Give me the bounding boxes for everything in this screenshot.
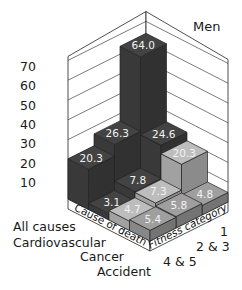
cause-label-cancer: Cancer: [80, 251, 124, 264]
cause-label-accident: Accident: [97, 266, 151, 279]
z-tick-20: 20: [6, 158, 36, 171]
z-tick-60: 60: [6, 80, 36, 93]
value-label: 20.3: [173, 147, 196, 159]
z-tick-10: 10: [6, 177, 36, 190]
fitness-label-2-3: 2 & 3: [196, 241, 230, 254]
fitness-label-1: 1: [220, 226, 228, 239]
value-label: 5.8: [170, 199, 187, 211]
value-label: 64.0: [132, 39, 155, 51]
value-label: 4.7: [124, 203, 141, 215]
z-tick-30: 30: [6, 138, 36, 151]
value-label: 24.6: [152, 128, 176, 140]
cause-label-cardiovascular: Cardiovascular: [13, 237, 106, 250]
fitness-label-4-5: 4 & 5: [163, 256, 197, 269]
value-label: 4.8: [196, 188, 213, 200]
value-label: 7.8: [129, 174, 146, 186]
value-label: 20.3: [80, 152, 103, 164]
value-label: 5.4: [144, 213, 161, 225]
z-tick-40: 40: [6, 119, 36, 132]
value-label: 26.3: [106, 127, 129, 139]
z-tick-70: 70: [6, 61, 36, 74]
z-tick-50: 50: [6, 100, 36, 113]
cause-label-all-causes: All causes: [13, 221, 76, 234]
chart-title: Men: [193, 20, 220, 33]
value-label: 7.3: [150, 185, 167, 197]
